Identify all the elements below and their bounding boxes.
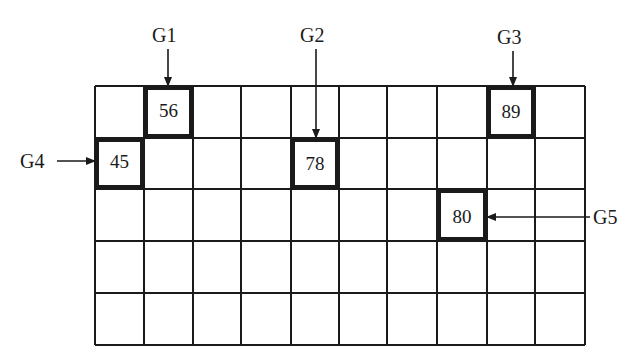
cell-value-45: 45: [95, 151, 144, 173]
cell-value-56: 56: [144, 100, 193, 122]
cell-value-78: 78: [291, 153, 339, 175]
label-g3: G3: [497, 27, 521, 47]
label-g2: G2: [300, 25, 324, 45]
label-g1: G1: [152, 25, 176, 45]
grid-pointer-diagram: G1 G2 G3 G4 G5 56 89 45 78 80: [0, 0, 637, 355]
cell-value-89: 89: [487, 101, 535, 123]
label-g4: G4: [20, 151, 44, 171]
grid-canvas: [0, 0, 637, 355]
cell-value-80: 80: [437, 206, 487, 228]
label-g5: G5: [593, 207, 617, 227]
